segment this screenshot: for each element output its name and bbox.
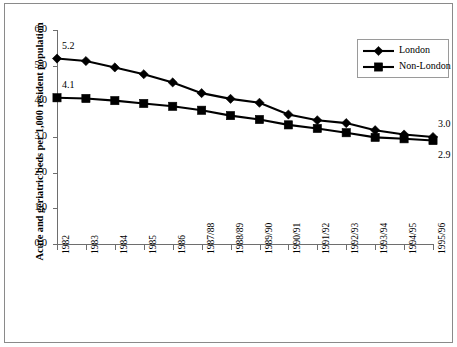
data-point-square bbox=[82, 94, 90, 102]
x-tick bbox=[173, 245, 174, 250]
x-tick bbox=[86, 245, 87, 250]
y-tick-label: 2.0 bbox=[35, 166, 48, 177]
data-point-square bbox=[429, 136, 437, 144]
data-label: 2.9 bbox=[438, 149, 451, 160]
x-tick bbox=[57, 245, 58, 250]
data-point-square bbox=[371, 133, 379, 141]
chart-legend: London Non-London bbox=[357, 39, 449, 78]
data-point-diamond bbox=[226, 94, 235, 103]
data-point-square bbox=[111, 97, 119, 105]
chart-figure: Acute and geriatric beds per 1,000 resid… bbox=[0, 0, 457, 347]
x-tick-label: 1995/96 bbox=[437, 223, 447, 254]
x-tick bbox=[231, 245, 232, 250]
data-point-diamond bbox=[168, 78, 177, 87]
data-point-diamond bbox=[313, 116, 322, 125]
data-point-diamond bbox=[139, 70, 148, 79]
y-tick-label: 0.0 bbox=[35, 237, 48, 248]
data-point-diamond bbox=[284, 110, 293, 119]
x-tick bbox=[260, 245, 261, 250]
data-point-square bbox=[284, 121, 292, 129]
x-tick bbox=[404, 245, 405, 250]
x-tick bbox=[375, 245, 376, 250]
legend-item-london: London bbox=[362, 43, 448, 59]
data-point-square bbox=[226, 112, 234, 120]
legend-label-non-london: Non-London bbox=[399, 60, 451, 71]
y-tick-label: 5.0 bbox=[35, 59, 48, 70]
y-tick-label: 3.0 bbox=[35, 130, 48, 141]
y-tick-label: 1.0 bbox=[35, 201, 48, 212]
data-point-square bbox=[313, 124, 321, 132]
x-tick bbox=[144, 245, 145, 250]
legend-label-london: London bbox=[399, 44, 430, 55]
data-point-square bbox=[400, 135, 408, 143]
x-tick bbox=[115, 245, 116, 250]
x-tick bbox=[288, 245, 289, 250]
data-label: 4.1 bbox=[62, 79, 75, 90]
y-tick-label: 4.0 bbox=[35, 94, 48, 105]
data-point-square bbox=[255, 115, 263, 123]
data-point-diamond bbox=[110, 63, 119, 72]
data-point-square bbox=[342, 129, 350, 137]
legend-item-non-london: Non-London bbox=[362, 59, 448, 75]
square-icon bbox=[362, 59, 395, 75]
x-tick bbox=[346, 245, 347, 250]
data-point-diamond bbox=[255, 98, 264, 107]
data-label: 3.0 bbox=[438, 118, 451, 129]
data-point-square bbox=[53, 94, 61, 102]
data-point-diamond bbox=[81, 56, 90, 65]
y-tick-label: 6.0 bbox=[35, 23, 48, 34]
x-tick bbox=[317, 245, 318, 250]
data-label: 5.2 bbox=[62, 40, 75, 51]
diamond-icon bbox=[362, 43, 395, 59]
data-point-square bbox=[140, 99, 148, 107]
data-point-square bbox=[198, 106, 206, 114]
data-point-square bbox=[169, 102, 177, 110]
data-point-diamond bbox=[342, 118, 351, 127]
x-tick bbox=[202, 245, 203, 250]
data-point-diamond bbox=[197, 89, 206, 98]
x-tick bbox=[433, 245, 434, 250]
y-axis-title: Acute and geriatric beds per 1,000 resid… bbox=[34, 17, 45, 267]
